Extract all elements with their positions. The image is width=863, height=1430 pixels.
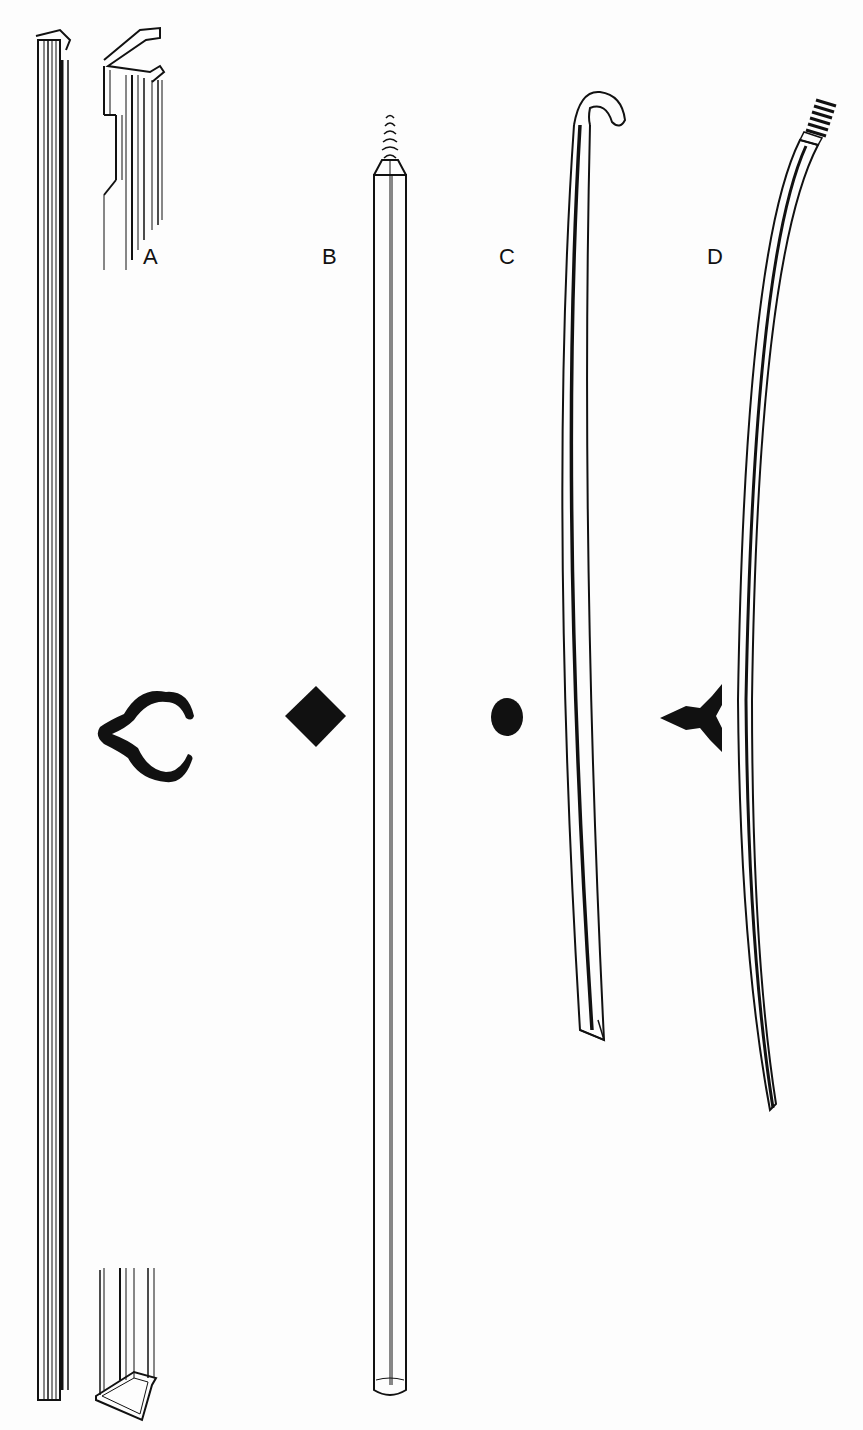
label-c: C (499, 244, 515, 270)
cross-section-d-icon (660, 684, 722, 752)
rod-b-straight (374, 160, 406, 1395)
rod-c-hooked (562, 92, 625, 1040)
label-d: D (707, 244, 723, 270)
cross-section-b-icon (285, 686, 346, 747)
label-b: B (322, 244, 337, 270)
rod-d-curved (738, 132, 822, 1110)
rod-a-top-clip (104, 28, 164, 270)
illustration: A B C D (0, 0, 863, 1430)
rod-a-bottom-clip (96, 1268, 156, 1420)
cross-section-a-icon (98, 691, 194, 782)
rod-d-thread (806, 100, 836, 136)
rods-drawing (0, 0, 863, 1430)
rod-a-channel (36, 30, 70, 1400)
cross-section-c-icon (491, 698, 523, 736)
label-a: A (143, 244, 158, 270)
rod-b-thread (382, 116, 398, 159)
